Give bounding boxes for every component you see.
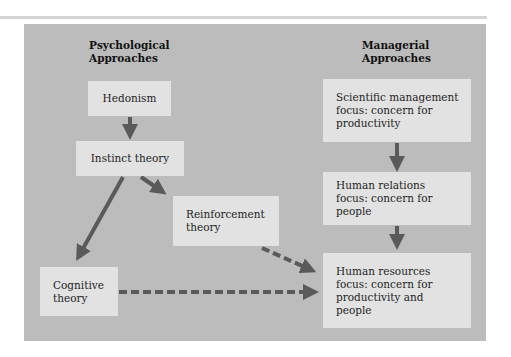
node-label: theory [53, 292, 104, 305]
node-hedonism: Hedonism [88, 81, 171, 116]
heading-line: Approaches [362, 52, 431, 65]
heading-psychological-approaches: Psychological Approaches [89, 39, 169, 65]
node-label: people [336, 304, 433, 317]
heading-managerial-approaches: Managerial Approaches [362, 39, 431, 65]
node-label: people [336, 205, 433, 218]
node-scientific-management: Scientific management focus: concern for… [323, 79, 471, 142]
node-label: Scientific management [336, 91, 459, 104]
node-label: Hedonism [103, 92, 157, 105]
node-label: productivity [336, 117, 459, 130]
node-label: Reinforcement [186, 208, 265, 221]
node-label: Human resources [336, 265, 433, 278]
node-label: focus: concern for [336, 104, 459, 117]
heading-line: Managerial [362, 39, 431, 52]
heading-line: Approaches [89, 52, 169, 65]
node-cognitive-theory: Cognitive theory [40, 267, 118, 316]
node-label: Human relations [336, 179, 433, 192]
arrow-instinct-to-reinforcement [141, 177, 160, 190]
node-label: Instinct theory [91, 152, 170, 165]
node-human-resources: Human resources focus: concern for produ… [323, 253, 471, 328]
node-label: theory [186, 221, 265, 234]
node-label: productivity and [336, 291, 433, 304]
node-human-relations: Human relations focus: concern for peopl… [323, 172, 471, 225]
arrow-instinct-to-cognitive [80, 177, 123, 254]
node-label: Cognitive [53, 279, 104, 292]
node-instinct-theory: Instinct theory [76, 141, 184, 176]
dashed-arrow-reinforcement-to-resources [262, 248, 309, 269]
node-reinforcement-theory: Reinforcement theory [173, 196, 279, 246]
heading-line: Psychological [89, 39, 169, 52]
node-label: focus: concern for [336, 278, 433, 291]
node-label: focus: concern for [336, 192, 433, 205]
